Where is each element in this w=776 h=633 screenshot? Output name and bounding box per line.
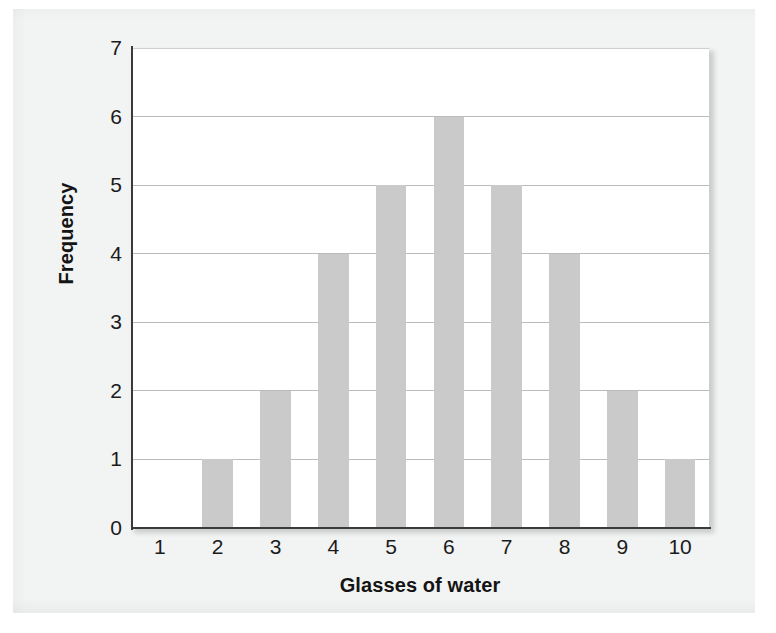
y-tick-label: 5	[82, 174, 122, 195]
y-tick-label: 6	[82, 106, 122, 127]
bar	[202, 459, 233, 528]
bar	[260, 391, 291, 528]
x-axis-line	[131, 527, 711, 529]
y-axis-line	[131, 46, 133, 530]
gridline	[131, 185, 709, 186]
bar	[665, 459, 696, 528]
x-tick-label: 6	[419, 536, 479, 557]
x-tick-label: 1	[130, 536, 190, 557]
y-tick-label: 3	[82, 311, 122, 332]
y-axis-title: Frequency	[55, 164, 78, 304]
x-tick-label: 4	[303, 536, 363, 557]
bar	[318, 254, 349, 528]
gridline	[131, 322, 709, 323]
gridline	[131, 116, 709, 117]
bar	[491, 185, 522, 528]
plot-area	[131, 48, 709, 528]
x-tick-label: 7	[477, 536, 537, 557]
y-tick-label: 2	[82, 380, 122, 401]
x-tick-label: 5	[361, 536, 421, 557]
bar	[549, 254, 580, 528]
y-tick-label: 4	[82, 243, 122, 264]
y-tick-label: 7	[82, 37, 122, 58]
bar	[607, 391, 638, 528]
y-axis-tick-labels: 01234567	[76, 0, 122, 633]
x-tick-label: 3	[246, 536, 306, 557]
bar	[376, 185, 407, 528]
bar-chart-figure: 01234567 12345678910 Frequency Glasses o…	[0, 0, 776, 633]
x-tick-label: 8	[535, 536, 595, 557]
x-axis-tick-labels: 12345678910	[131, 536, 709, 568]
x-tick-label: 10	[650, 536, 710, 557]
gridline	[131, 253, 709, 254]
y-tick-label: 1	[82, 448, 122, 469]
x-tick-label: 9	[592, 536, 652, 557]
x-tick-label: 2	[188, 536, 248, 557]
gridline	[131, 48, 709, 49]
x-axis-title: Glasses of water	[131, 574, 709, 597]
bar	[434, 117, 465, 528]
y-tick-label: 0	[82, 517, 122, 538]
